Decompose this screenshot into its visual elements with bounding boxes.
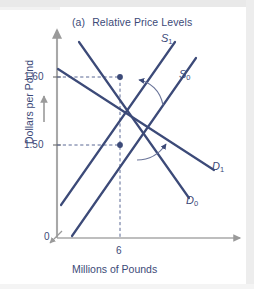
curve-lines (58, 42, 214, 236)
supply-shift-arrow (139, 80, 163, 105)
figure-container: (a)Relative Price Levels Dollars per Pou… (0, 0, 254, 289)
curve-label-d1: D1 (212, 160, 224, 172)
chart-title: (a)Relative Price Levels (72, 16, 192, 28)
ytick-label-160: 1.60 (24, 71, 43, 82)
demand-curve-d1 (58, 69, 214, 170)
curve-label-d1-sub: 1 (220, 165, 224, 174)
curve-label-s0: S0 (179, 68, 191, 80)
ytick-label-150: 1.50 (24, 139, 43, 150)
origin-label: 0 (44, 231, 50, 242)
equilibrium-point-new (117, 74, 123, 80)
supply-curve-s1 (61, 42, 175, 205)
curve-label-d0-letter: D (186, 194, 194, 206)
x-axis-label: Millions of Pounds (72, 263, 157, 275)
curve-label-s0-sub: 0 (186, 73, 190, 82)
chart-title-text: Relative Price Levels (92, 16, 192, 28)
equilibrium-point-initial (117, 142, 123, 148)
xtick-label-6: 6 (116, 245, 122, 256)
curve-label-d0-sub: 0 (194, 199, 198, 208)
curve-label-s1-sub: 1 (168, 37, 172, 46)
curve-label-d0: D0 (186, 194, 198, 206)
panel-letter: (a) (72, 16, 85, 28)
demand-curve-d0 (79, 42, 189, 198)
curve-label-s1: S1 (161, 32, 173, 44)
curve-label-d1-letter: D (212, 160, 220, 172)
